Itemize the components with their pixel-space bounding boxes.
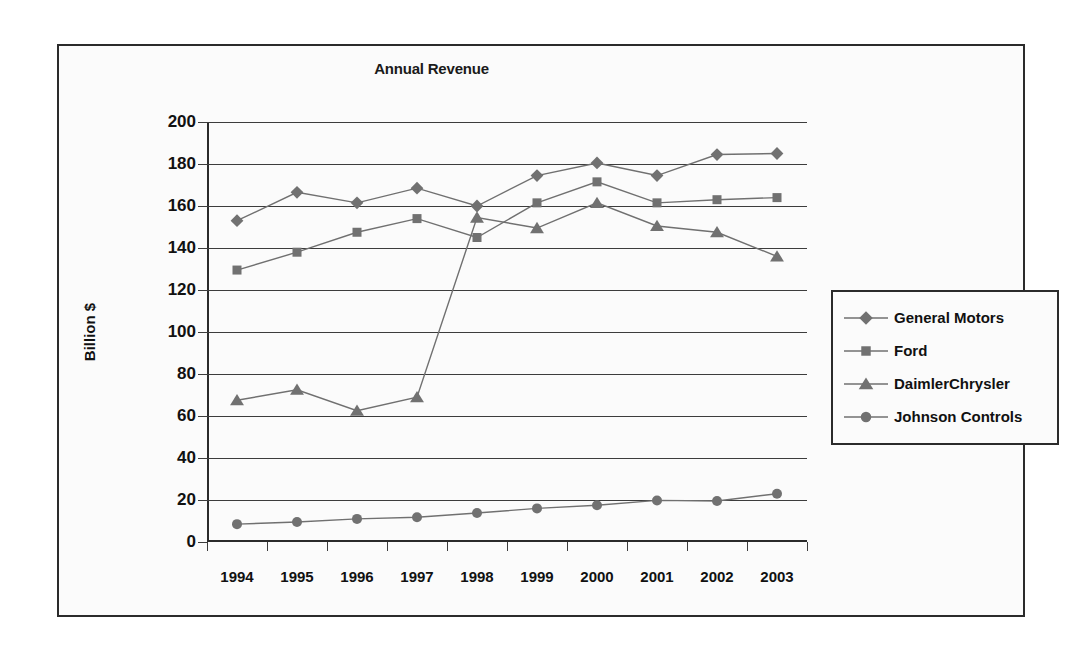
series-ford — [233, 177, 782, 274]
legend-item-label: Johnson Controls — [894, 408, 1022, 425]
x-tick-mark — [747, 542, 748, 551]
y-tick-mark — [198, 332, 207, 333]
circle-marker — [712, 496, 722, 506]
series-general-motors — [231, 147, 784, 227]
square-marker — [773, 193, 782, 202]
y-tick-mark — [198, 542, 207, 543]
y-tick-mark — [198, 458, 207, 459]
series-line — [237, 494, 777, 524]
x-tick-label: 2003 — [760, 568, 793, 585]
series-line — [237, 203, 777, 411]
circle-marker — [232, 519, 242, 529]
y-tick-label: 20 — [177, 490, 196, 510]
y-tick-mark — [198, 206, 207, 207]
diamond-marker — [291, 186, 304, 199]
x-tick-mark — [207, 542, 208, 551]
y-tick-mark — [198, 290, 207, 291]
series-line — [237, 182, 777, 270]
triangle-marker — [590, 197, 604, 208]
square-marker — [233, 266, 242, 275]
diamond-marker — [771, 147, 784, 160]
diamond-marker — [411, 182, 424, 195]
y-tick-label: 120 — [168, 280, 196, 300]
x-tick-label: 1996 — [340, 568, 373, 585]
x-tick-label: 1997 — [400, 568, 433, 585]
x-tick-label: 1999 — [520, 568, 553, 585]
diamond-legend-icon — [842, 308, 890, 328]
x-tick-mark — [507, 542, 508, 551]
x-tick-label: 2002 — [700, 568, 733, 585]
chart-frame: Annual Revenue Billion $ 020406080100120… — [57, 44, 1025, 617]
x-tick-mark — [687, 542, 688, 551]
x-tick-label: 1998 — [460, 568, 493, 585]
x-tick-mark — [447, 542, 448, 551]
chart-title: Annual Revenue — [59, 60, 804, 77]
circle-marker — [772, 489, 782, 499]
triangle-marker — [470, 211, 484, 222]
x-tick-mark — [387, 542, 388, 551]
triangle-marker — [290, 384, 304, 395]
y-tick-label: 160 — [168, 196, 196, 216]
circle-marker — [592, 500, 602, 510]
circle-marker — [861, 411, 872, 422]
y-tick-mark — [198, 122, 207, 123]
triangle-legend-icon — [842, 374, 890, 394]
circle-legend-icon — [842, 407, 890, 427]
circle-marker — [652, 495, 662, 505]
y-tick-label: 180 — [168, 154, 196, 174]
diamond-marker — [471, 200, 484, 213]
square-marker — [593, 177, 602, 186]
circle-marker — [352, 514, 362, 524]
circle-marker — [412, 512, 422, 522]
diamond-marker — [351, 196, 364, 209]
x-tick-label: 1994 — [220, 568, 253, 585]
triangle-marker — [650, 220, 664, 231]
x-tick-label: 1995 — [280, 568, 313, 585]
diamond-marker — [711, 148, 724, 161]
square-marker — [473, 233, 482, 242]
y-tick-label: 100 — [168, 322, 196, 342]
legend-item-ford[interactable]: Ford — [833, 334, 1057, 367]
plot-area: Billion $ 020406080100120140160180200 19… — [207, 122, 807, 542]
y-tick-mark — [198, 164, 207, 165]
square-legend-icon — [842, 341, 890, 361]
series-johnson-controls — [232, 489, 782, 529]
diamond-marker — [859, 311, 872, 324]
square-marker — [353, 228, 362, 237]
square-marker — [653, 198, 662, 207]
x-tick-label: 2000 — [580, 568, 613, 585]
y-tick-label: 200 — [168, 112, 196, 132]
x-tick-mark — [327, 542, 328, 551]
y-tick-label: 80 — [177, 364, 196, 384]
square-marker — [533, 198, 542, 207]
series-daimlerchrysler — [230, 197, 784, 416]
square-marker — [293, 248, 302, 257]
legend-item-label: General Motors — [894, 309, 1004, 326]
y-tick-mark — [198, 248, 207, 249]
y-tick-mark — [198, 500, 207, 501]
circle-marker — [472, 508, 482, 518]
circle-marker — [532, 503, 542, 513]
y-tick-label: 0 — [187, 532, 196, 552]
legend-item-label: Ford — [894, 342, 927, 359]
chart-legend: General MotorsFordDaimlerChryslerJohnson… — [831, 290, 1059, 445]
y-axis-title: Billion $ — [81, 303, 98, 361]
legend-item-general-motors[interactable]: General Motors — [833, 301, 1057, 334]
x-tick-mark — [627, 542, 628, 551]
triangle-marker — [770, 250, 784, 261]
x-tick-label: 2001 — [640, 568, 673, 585]
series-line — [237, 154, 777, 221]
diamond-marker — [531, 169, 544, 182]
y-tick-label: 140 — [168, 238, 196, 258]
legend-item-daimlerchrysler[interactable]: DaimlerChrysler — [833, 367, 1057, 400]
square-marker — [861, 346, 870, 355]
diamond-marker — [651, 169, 664, 182]
legend-item-label: DaimlerChrysler — [894, 375, 1010, 392]
y-tick-label: 40 — [177, 448, 196, 468]
y-tick-mark — [198, 416, 207, 417]
y-tick-label: 60 — [177, 406, 196, 426]
x-tick-mark — [267, 542, 268, 551]
legend-item-johnson-controls[interactable]: Johnson Controls — [833, 400, 1057, 433]
diamond-marker — [231, 214, 244, 227]
square-marker — [713, 195, 722, 204]
